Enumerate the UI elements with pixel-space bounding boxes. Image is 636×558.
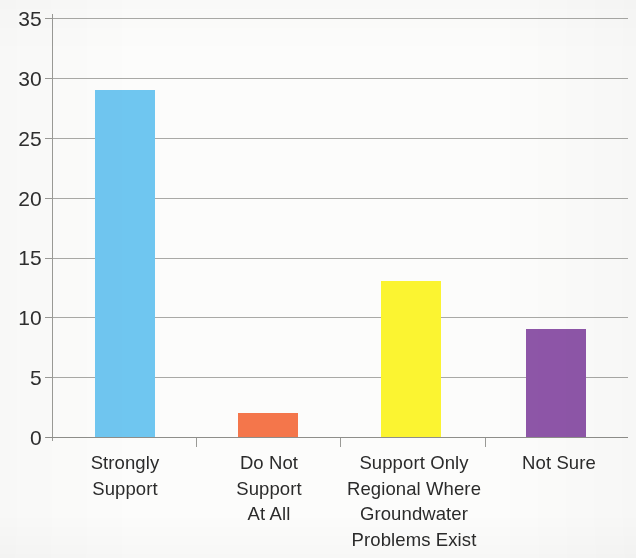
ytick-label-10: 10 — [0, 307, 42, 328]
gridline-35 — [52, 18, 628, 19]
xlabel-line: Regional Where — [339, 476, 489, 502]
xlabel-line: At All — [196, 501, 342, 527]
gridline-30 — [52, 78, 628, 79]
x-axis-line — [46, 437, 628, 438]
xlabel-line: Strongly — [52, 450, 198, 476]
bar-strongly-support — [95, 90, 155, 437]
x-axis-labels: StronglySupport Do NotSupportAt All Supp… — [52, 450, 632, 556]
xlabel-line: Problems Exist — [339, 527, 489, 553]
xlabel-do-not-support-at-all: Do NotSupportAt All — [196, 450, 342, 527]
xtick-mark-3 — [485, 438, 486, 447]
bar-chart: 35 30 25 20 15 10 5 0 StronglySupport Do… — [0, 0, 636, 558]
bar-do-not-support-at-all — [238, 413, 298, 437]
ytick-label-5: 5 — [0, 367, 42, 388]
ytick-label-30: 30 — [0, 68, 42, 89]
bar-support-only-regional — [381, 281, 441, 437]
ytick-label-35: 35 — [0, 8, 42, 29]
xtick-mark-1 — [196, 438, 197, 447]
xlabel-line: Do Not — [196, 450, 342, 476]
xlabel-line: Support Only — [339, 450, 489, 476]
ytick-label-25: 25 — [0, 128, 42, 149]
xlabel-line: Groundwater — [339, 501, 489, 527]
xlabel-not-sure: Not Sure — [485, 450, 633, 476]
ytick-label-20: 20 — [0, 188, 42, 209]
bar-not-sure — [526, 329, 586, 437]
xlabel-strongly-support: StronglySupport — [52, 450, 198, 501]
xlabel-support-only-regional: Support OnlyRegional WhereGroundwaterPro… — [339, 450, 489, 552]
plot-area — [52, 18, 628, 437]
xlabel-line: Support — [196, 476, 342, 502]
ytick-label-0: 0 — [0, 427, 42, 448]
xlabel-line: Not Sure — [485, 450, 633, 476]
ytick-label-15: 15 — [0, 247, 42, 268]
xlabel-line: Support — [52, 476, 198, 502]
xtick-mark-2 — [340, 438, 341, 447]
